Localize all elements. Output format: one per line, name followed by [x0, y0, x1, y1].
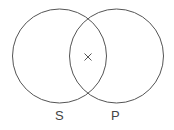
intersection-x-marker — [85, 54, 92, 61]
circle-p — [70, 9, 164, 103]
venn-diagram — [0, 0, 174, 130]
label-s: S — [55, 109, 64, 122]
circle-s — [13, 9, 107, 103]
label-p: P — [111, 109, 120, 122]
